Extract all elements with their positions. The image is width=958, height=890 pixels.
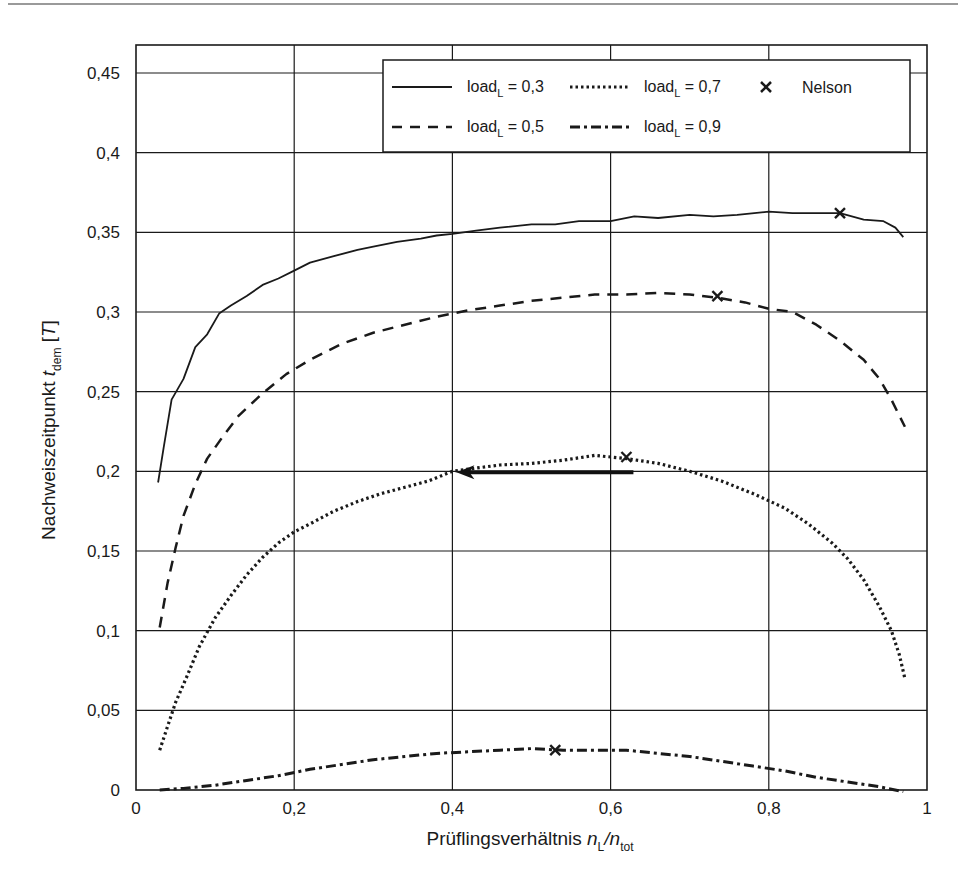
- x-tick-label: 0: [131, 799, 140, 818]
- series-line-1: [160, 293, 905, 628]
- y-tick-label: 0,25: [87, 383, 120, 402]
- x-tick-label: 0,4: [441, 799, 465, 818]
- x-tick-label: 1: [922, 799, 931, 818]
- series-line-0: [158, 212, 903, 483]
- y-tick-label: 0,15: [87, 542, 120, 561]
- nelson-markers: [550, 208, 845, 755]
- y-tick-label: 0,2: [96, 462, 120, 481]
- legend: loadL = 0,3 loadL = 0,7 Nelson loadL = 0…: [383, 60, 910, 152]
- legend-label-nelson: Nelson: [802, 79, 852, 96]
- y-tick-label: 0,45: [87, 64, 120, 83]
- legend-box: [383, 60, 910, 152]
- y-axis-title: Nachweiszeitpunkt tdem [T]: [38, 320, 64, 540]
- y-tick-label: 0,05: [87, 701, 120, 720]
- grid: [136, 45, 927, 790]
- plot-frame: [136, 45, 927, 790]
- y-tick-label: 0,1: [96, 622, 120, 641]
- x-axis-title: Prüflingsverhältnis nL/ntot: [427, 828, 635, 854]
- y-tick-label: 0: [111, 781, 120, 800]
- series-line-2: [160, 455, 905, 750]
- tick-labels: 00,050,10,150,20,250,30,350,40,4500,20,4…: [87, 64, 932, 818]
- series-group: [158, 212, 905, 792]
- nelson-x-marker-icon: [712, 291, 722, 301]
- y-tick-label: 0,3: [96, 303, 120, 322]
- nelson-x-marker-icon: [621, 452, 631, 462]
- y-tick-label: 0,4: [96, 144, 120, 163]
- x-tick-label: 0,2: [282, 799, 306, 818]
- y-tick-label: 0,35: [87, 223, 120, 242]
- chart: 00,050,10,150,20,250,30,350,40,4500,20,4…: [0, 0, 958, 890]
- x-tick-label: 0,6: [599, 799, 623, 818]
- series-line-3: [160, 749, 904, 792]
- x-tick-label: 0,8: [757, 799, 781, 818]
